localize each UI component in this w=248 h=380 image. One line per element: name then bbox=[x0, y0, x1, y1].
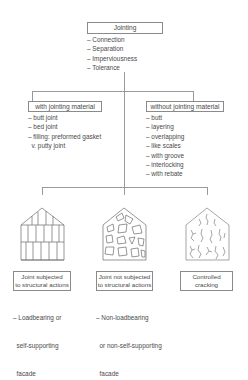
root-item: – Tolerance bbox=[87, 63, 137, 72]
type-title-line2: to structural actions bbox=[97, 281, 152, 289]
root-item: – Separation bbox=[87, 44, 137, 53]
branch-item: – butt joint bbox=[28, 113, 101, 122]
connector-drop-3 bbox=[207, 187, 208, 195]
branch-list-with-material: – butt joint – bed joint – filling: pref… bbox=[28, 113, 101, 151]
root-box: Jointing bbox=[87, 22, 163, 34]
type-title-line2: to structural actions bbox=[14, 281, 70, 289]
branch-box-without-material: without jointing material bbox=[146, 101, 224, 112]
branch-item: – bed joint bbox=[28, 122, 101, 131]
connector-trunk bbox=[124, 72, 125, 187]
type-note-structural: – Loadbearing or self-supporting facade bbox=[13, 294, 61, 380]
branch-item: – butt bbox=[146, 113, 184, 122]
type-title-line2: cracking bbox=[181, 281, 232, 289]
type-title-line1: Joint subjected bbox=[14, 273, 70, 281]
type-title-line1: Joint not subjected bbox=[97, 273, 152, 281]
root-item: – Connection bbox=[87, 35, 137, 44]
random-stone-facade-icon bbox=[102, 207, 147, 261]
vertical-panel-facade-icon bbox=[20, 207, 65, 261]
connector-level3-horizontal bbox=[42, 187, 208, 188]
branch-item: – filling: preformed gasket bbox=[28, 132, 101, 141]
root-item: – Imperviousness bbox=[87, 54, 137, 63]
connector-left-drop bbox=[32, 91, 33, 101]
branch-item: – overlapping bbox=[146, 132, 184, 141]
branch-box-with-material: with jointing material bbox=[28, 101, 102, 112]
type-box-structural: Joint subjected to structural actions bbox=[13, 271, 71, 291]
branch-item: – with groove bbox=[146, 151, 184, 160]
branch-title: with jointing material bbox=[35, 103, 95, 110]
connector-drop-1 bbox=[42, 187, 43, 195]
connector-level2-horizontal bbox=[32, 91, 194, 92]
connector-drop-2 bbox=[124, 187, 125, 195]
branch-item: v. putty joint bbox=[28, 141, 101, 150]
connector-right-drop bbox=[193, 91, 194, 101]
type-title-line1: Controlled bbox=[181, 273, 232, 281]
branch-item: – layering bbox=[146, 122, 184, 131]
cracked-facade-icon bbox=[185, 207, 230, 261]
branch-item: – interlocking bbox=[146, 160, 184, 169]
branch-item: – with rebate bbox=[146, 169, 184, 178]
type-box-non-structural: Joint not subjected to structural action… bbox=[96, 271, 153, 291]
root-title: Jointing bbox=[114, 24, 137, 31]
branch-title: without jointing material bbox=[151, 103, 220, 110]
type-box-controlled-cracking: Controlled cracking bbox=[180, 271, 233, 291]
root-list: – Connection – Separation – Imperviousne… bbox=[87, 35, 137, 73]
branch-list-without-material: – butt – layering – overlapping – like s… bbox=[146, 113, 184, 179]
branch-item: – like scales bbox=[146, 141, 184, 150]
type-note-non-structural: – Non-loadbearing or non-self-supporting… bbox=[96, 294, 162, 380]
